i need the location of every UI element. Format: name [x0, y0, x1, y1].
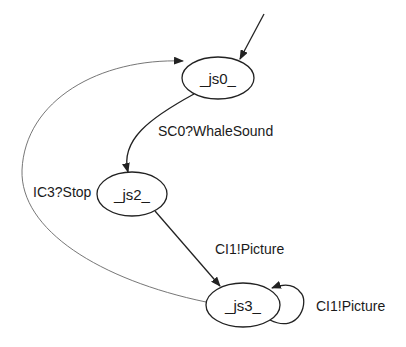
state-label-js0: _js0_: [199, 70, 237, 87]
state-diagram: _js0_ _js2_ _js3_ SC0?WhaleSound CI1!Pic…: [0, 0, 406, 347]
edge-label-js3-self: CI1!Picture: [316, 298, 385, 314]
edge-label-js0-js2: SC0?WhaleSound: [158, 123, 273, 139]
state-label-js3: _js3_: [224, 297, 262, 314]
state-node-js0[interactable]: _js0_: [182, 57, 254, 99]
state-label-js2: _js2_: [113, 186, 151, 203]
state-node-js2[interactable]: _js2_: [97, 172, 167, 216]
edge-label-js2-js3: CI1!Picture: [215, 241, 284, 257]
initial-transition-arrow: [240, 14, 264, 59]
state-node-js3[interactable]: _js3_: [206, 283, 280, 327]
edge-label-js3-js0: IC3?Stop: [33, 184, 92, 200]
edge-js2-js3: [155, 211, 220, 286]
